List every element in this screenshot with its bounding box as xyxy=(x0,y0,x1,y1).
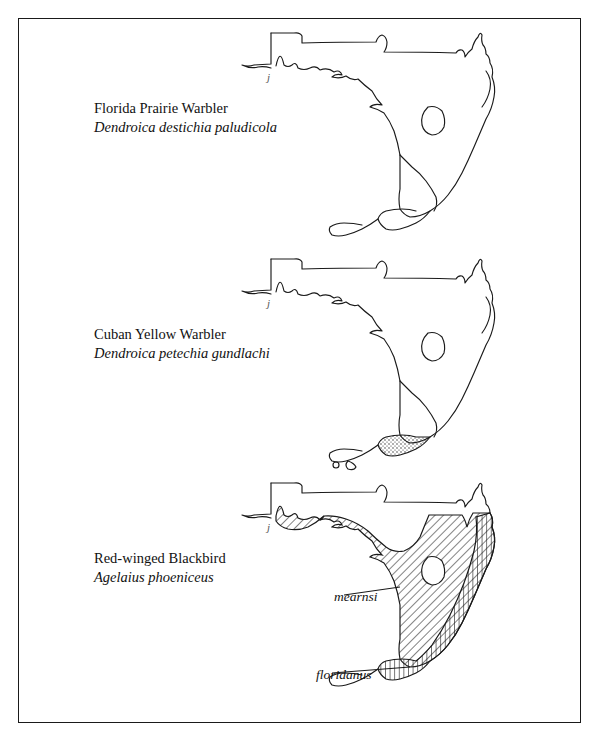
florida-map: j mearnsi floridanus xyxy=(224,471,524,703)
scan-artifact: j xyxy=(265,521,270,533)
florida-map: j xyxy=(224,247,524,479)
range-shading xyxy=(378,435,430,456)
panel-florida-prairie-warbler: Florida Prairie Warbler Dendroica destic… xyxy=(19,21,582,253)
florida-map: j xyxy=(224,21,524,253)
subspecies-label-mearnsi: mearnsi xyxy=(334,589,378,605)
scan-artifact: j xyxy=(265,297,270,309)
subspecies-label-floridanus: floridanus xyxy=(316,667,372,683)
figure-frame: Florida Prairie Warbler Dendroica destic… xyxy=(18,18,581,723)
panel-cuban-yellow-warbler: Cuban Yellow Warbler Dendroica petechia … xyxy=(19,247,582,479)
panel-red-winged-blackbird: Red-winged Blackbird Agelaius phoeniceus xyxy=(19,471,582,703)
range-mearnsi-panhandle xyxy=(276,506,324,529)
scan-artifact: j xyxy=(265,71,270,83)
